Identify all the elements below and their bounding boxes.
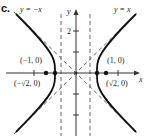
label-left-vertex: (−1, 0) bbox=[20, 56, 42, 65]
y-axis-arrow-icon bbox=[74, 9, 79, 15]
origin-point bbox=[74, 71, 77, 74]
part-label: c. bbox=[1, 2, 10, 14]
hyperbola-diagram: c. y = −x y = x y x 2 (−1, 0) (1, 0) (−√… bbox=[0, 0, 146, 139]
x-axis-label: x bbox=[138, 75, 143, 84]
asymptote-label-neg: y = −x bbox=[19, 5, 42, 14]
label-right-focus: (√2, 0) bbox=[106, 79, 128, 88]
label-right-vertex: (1, 0) bbox=[107, 56, 125, 65]
asymptote-label-pos: y = x bbox=[113, 5, 131, 14]
point-sqrt2 bbox=[104, 71, 108, 75]
label-left-focus: (−√2, 0) bbox=[14, 79, 41, 88]
y-tick-label-2: 2 bbox=[67, 27, 71, 36]
point-1 bbox=[95, 71, 99, 75]
point-neg-sqrt2 bbox=[44, 71, 48, 75]
y-axis-label: y bbox=[66, 7, 71, 16]
point-neg1 bbox=[53, 71, 57, 75]
